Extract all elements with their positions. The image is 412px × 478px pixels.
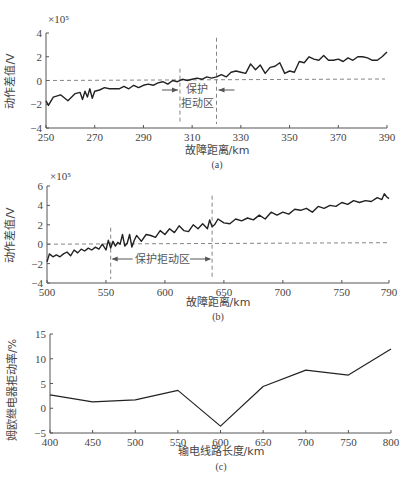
x-tick-label: 600	[157, 286, 174, 298]
chart-b-series-line	[47, 194, 389, 262]
x-tick-label: 550	[98, 286, 115, 298]
chart-b-axes: −4−20246500550600650700750790	[31, 180, 397, 298]
zero-reference-line	[47, 243, 387, 245]
chart-panel-a: −4−2024250270290310330350370390 ×10⁵ 动作差…	[3, 13, 396, 171]
chart-c-ylabel: 姆欧继电器拒动率/%	[5, 339, 19, 441]
chart-a-xlabel: 故障距离/km	[185, 143, 250, 157]
zone-arrowhead-left	[112, 257, 118, 262]
chart-b-ylabel: 动作差值/V	[3, 207, 17, 263]
x-tick-label: 700	[298, 436, 315, 448]
x-tick-label: 290	[135, 131, 152, 143]
chart-b-zone-label: 保护拒动区	[135, 252, 190, 266]
chart-a-y-multiplier: ×10⁵	[48, 13, 69, 25]
y-tick-label: 15	[35, 328, 47, 340]
figure-canvas: −4−2024250270290310330350370390 ×10⁵ 动作差…	[0, 0, 412, 478]
zone-arrowhead-right	[205, 257, 211, 262]
chart-c-panel-label: (c)	[215, 461, 226, 473]
chart-b-xlabel: 故障距离/km	[186, 295, 251, 309]
x-tick-label: 790	[381, 286, 398, 298]
x-tick-label: 500	[39, 286, 56, 298]
chart-c-series-line	[50, 349, 391, 426]
y-tick-label: 2	[38, 219, 44, 231]
x-tick-label: 400	[42, 436, 59, 448]
zone-arrowhead-right	[219, 88, 225, 93]
x-tick-label: 450	[84, 436, 101, 448]
chart-a-panel-label: (a)	[211, 159, 222, 171]
y-tick-label: 2	[37, 51, 43, 63]
x-tick-label: 750	[334, 286, 351, 298]
x-tick-label: 310	[184, 131, 201, 143]
x-tick-label: 370	[330, 131, 347, 143]
y-tick-label: 5	[41, 378, 47, 390]
chart-c-xlabel: 输电线路长度/km	[178, 444, 265, 458]
y-tick-label: 0	[38, 238, 44, 250]
x-tick-label: 250	[38, 131, 55, 143]
y-tick-label: 4	[38, 199, 44, 211]
y-tick-label: 0	[37, 75, 43, 87]
chart-b-panel-label: (b)	[212, 311, 224, 323]
x-tick-label: 390	[379, 131, 396, 143]
x-tick-label: 500	[127, 436, 144, 448]
x-tick-label: 350	[281, 131, 298, 143]
chart-a-ylabel: 动作差值/V	[3, 53, 17, 109]
y-tick-label: −2	[31, 258, 43, 270]
chart-a-zone-label-1: 保护	[186, 82, 208, 96]
chart-c-axes: −5051015400450500550600650700750800	[34, 328, 399, 448]
x-tick-label: 700	[275, 286, 292, 298]
y-tick-label: 0	[41, 402, 47, 414]
y-tick-label: −2	[30, 98, 42, 110]
x-tick-label: 800	[383, 436, 400, 448]
chart-a-zone-label-2: 拒动区	[181, 97, 214, 110]
x-tick-label: 750	[340, 436, 357, 448]
x-tick-label: 330	[233, 131, 250, 143]
chart-panel-b: −4−20246500550600650700750790 ×10⁵ 动作差值/…	[3, 170, 398, 323]
zone-arrowhead-left	[172, 88, 178, 93]
chart-panel-c: −5051015400450500550600650700750800 姆欧继电…	[5, 328, 400, 473]
y-tick-label: 10	[35, 353, 47, 365]
chart-a-axes: −4−2024250270290310330350370390	[30, 27, 395, 143]
chart-b-y-multiplier: ×10⁵	[50, 170, 71, 182]
zero-reference-line	[46, 79, 385, 81]
y-tick-label: 6	[38, 180, 44, 192]
y-tick-label: 4	[37, 27, 43, 39]
x-tick-label: 270	[86, 131, 103, 143]
